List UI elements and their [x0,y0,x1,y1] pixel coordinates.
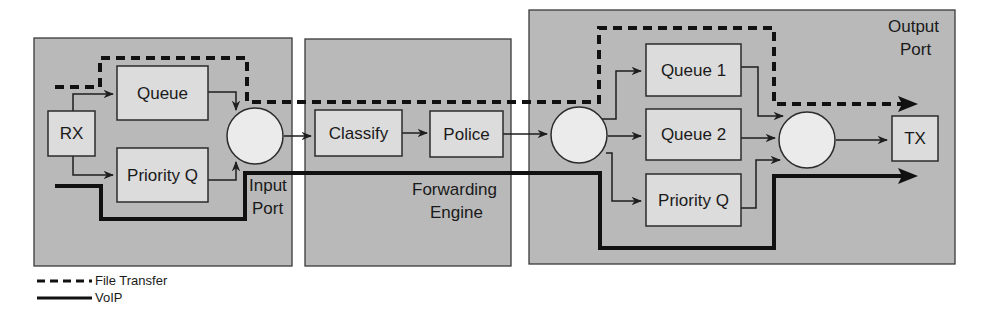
rx-label: RX [60,124,84,143]
output-port-label-line2: Port [900,40,931,59]
input-queue-label: Queue [137,84,188,103]
rx-node: RX [48,111,95,156]
legend-item-voip: VoIP [37,290,122,305]
output-classifier-node [551,107,607,163]
queue2-node: Queue 2 [646,109,741,160]
classify-node: Classify [315,110,402,156]
tx-label: TX [904,129,926,148]
police-label: Police [443,125,489,144]
output-scheduler-node [779,112,835,168]
legend-label-file-transfer: File Transfer [95,273,168,288]
input-scheduler-node [227,108,283,164]
input-priority-q-label: Priority Q [127,166,198,185]
forwarding-engine-label-line2: Engine [430,203,483,222]
queue2-label: Queue 2 [661,125,726,144]
input-port-label-line2: Port [252,199,283,218]
forwarding-engine-label-line1: Forwarding [412,180,497,199]
legend-label-voip: VoIP [95,290,122,305]
qos-router-diagram: RX Queue Priority Q Classify Police Queu… [0,0,988,320]
police-node: Police [430,111,503,157]
input-priority-q-node: Priority Q [117,148,208,202]
input-queue-node: Queue [117,66,208,120]
output-port-label-line1: Output [888,17,939,36]
output-priority-q-label: Priority Q [658,191,729,210]
legend-item-file-transfer: File Transfer [37,273,168,288]
tx-node: TX [892,116,938,161]
input-port-label-line1: Input [249,176,287,195]
classify-label: Classify [329,124,389,143]
queue1-label: Queue 1 [661,61,726,80]
output-priority-q-node: Priority Q [646,174,741,226]
queue1-node: Queue 1 [646,44,741,96]
legend: File Transfer VoIP [37,273,168,305]
